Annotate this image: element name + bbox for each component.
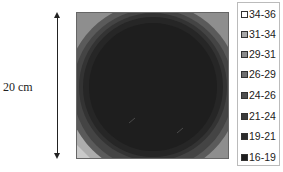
legend-item: 26-29 xyxy=(241,68,276,80)
legend-item: 31-34 xyxy=(241,28,276,40)
contour-plot xyxy=(76,12,229,159)
legend-label: 19-21 xyxy=(249,130,276,142)
legend-item: 29-31 xyxy=(241,48,276,60)
legend-label: 29-31 xyxy=(249,48,276,60)
legend-item: 16-19 xyxy=(241,151,276,163)
dimension-label: 20 cm xyxy=(3,80,33,95)
legend: 34-36 31-34 29-31 26-29 24-26 21-24 19-2… xyxy=(237,2,280,166)
legend-swatch xyxy=(241,133,248,140)
arrow-down-icon xyxy=(54,153,60,159)
legend-swatch xyxy=(241,113,248,120)
legend-label: 24-26 xyxy=(249,89,276,101)
legend-swatch xyxy=(241,11,248,18)
legend-swatch xyxy=(241,92,248,99)
legend-swatch xyxy=(241,31,248,38)
legend-item: 21-24 xyxy=(241,110,276,122)
legend-swatch xyxy=(241,71,248,78)
legend-swatch xyxy=(241,154,248,161)
legend-label: 31-34 xyxy=(249,28,276,40)
legend-label: 21-24 xyxy=(249,110,276,122)
arrow-line xyxy=(57,16,58,154)
legend-swatch xyxy=(241,51,248,58)
legend-item: 19-21 xyxy=(241,130,276,142)
contour-map xyxy=(77,13,229,159)
legend-label: 26-29 xyxy=(249,68,276,80)
legend-label: 34-36 xyxy=(249,8,276,20)
legend-label: 16-19 xyxy=(249,151,276,163)
legend-item: 34-36 xyxy=(241,8,276,20)
legend-item: 24-26 xyxy=(241,89,276,101)
